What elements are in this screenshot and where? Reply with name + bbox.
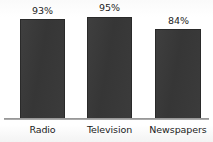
bar-newspapers [155,29,201,119]
x-axis-label-radio: Radio [10,124,75,136]
bar-value-label: 93% [12,5,73,16]
bar-television [87,17,132,119]
x-axis-line [4,118,209,120]
x-axis-label-newspapers: Newspapers [143,124,213,136]
plot-area: 93% 95% 84% [0,0,213,119]
bar-value-label: 95% [79,2,140,13]
bar-chart: 93% 95% 84% Radio Television Newspapers [0,0,213,142]
bar-radio [20,19,65,119]
bar-value-label: 84% [148,15,209,26]
x-axis-label-television: Television [74,124,145,136]
